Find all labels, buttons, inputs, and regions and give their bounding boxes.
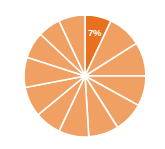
pie-chart-svg: 7% (0, 0, 165, 149)
pie-slices-group (24, 15, 146, 137)
pie-slice-label: 7% (88, 27, 102, 38)
pie-labels-group: 7% (88, 27, 102, 38)
pie-chart-container: 7% (0, 0, 165, 149)
